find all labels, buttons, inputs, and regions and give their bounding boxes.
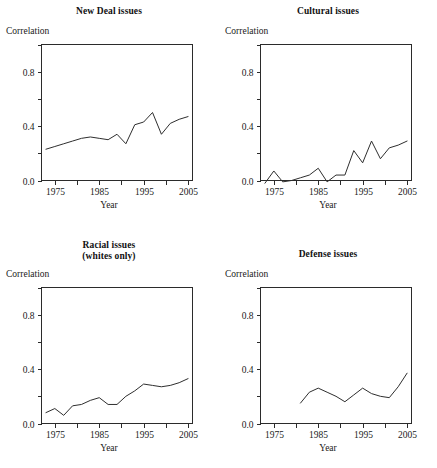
svg-text:1975: 1975 <box>265 430 284 440</box>
svg-text:1985: 1985 <box>309 430 328 440</box>
svg-text:1985: 1985 <box>90 430 109 440</box>
svg-text:0.4: 0.4 <box>23 365 35 375</box>
svg-text:2005: 2005 <box>179 430 198 440</box>
plot-area: 0.00.40.81975198519952005 <box>219 243 437 468</box>
svg-text:1975: 1975 <box>46 430 65 440</box>
x-axis-label: Year <box>219 200 437 210</box>
svg-text:0.0: 0.0 <box>23 177 35 187</box>
data-series-line <box>46 113 188 150</box>
svg-text:1985: 1985 <box>90 187 109 197</box>
svg-text:0.0: 0.0 <box>23 420 35 430</box>
figure-four-panel-correlation-charts: New Deal issues Correlation 0.00.40.8197… <box>0 0 437 468</box>
svg-text:2005: 2005 <box>398 187 417 197</box>
plot-area: 0.00.40.81975198519952005 <box>0 0 218 234</box>
svg-text:0.0: 0.0 <box>242 177 254 187</box>
plot-area: 0.00.40.81975198519952005 <box>219 0 437 234</box>
svg-text:1995: 1995 <box>135 187 154 197</box>
svg-text:0.4: 0.4 <box>242 365 254 375</box>
svg-text:2005: 2005 <box>398 430 417 440</box>
panel-cultural-issues: Cultural issues Correlation 0.00.40.8197… <box>219 0 437 234</box>
x-axis-label: Year <box>0 200 218 210</box>
svg-text:1995: 1995 <box>135 430 154 440</box>
x-axis-label: Year <box>219 443 437 453</box>
svg-text:1995: 1995 <box>354 187 373 197</box>
svg-text:0.8: 0.8 <box>242 68 254 78</box>
svg-text:2005: 2005 <box>179 187 198 197</box>
svg-text:1975: 1975 <box>46 187 65 197</box>
plot-area: 0.00.40.81975198519952005 <box>0 243 218 468</box>
data-series-line <box>265 141 407 183</box>
svg-text:1985: 1985 <box>309 187 328 197</box>
svg-text:0.8: 0.8 <box>23 311 35 321</box>
svg-text:0.4: 0.4 <box>242 122 254 132</box>
panel-racial-issues: Racial issues (whites only) Correlation … <box>0 234 218 468</box>
x-axis-label: Year <box>0 443 218 453</box>
svg-text:0.0: 0.0 <box>242 420 254 430</box>
panel-defense-issues: Defense issues Correlation 0.00.40.81975… <box>219 234 437 468</box>
panel-new-deal-issues: New Deal issues Correlation 0.00.40.8197… <box>0 0 218 234</box>
data-series-line <box>300 373 407 403</box>
svg-text:1995: 1995 <box>354 430 373 440</box>
svg-text:0.4: 0.4 <box>23 122 35 132</box>
svg-text:0.8: 0.8 <box>242 311 254 321</box>
data-series-line <box>46 379 188 416</box>
svg-text:0.8: 0.8 <box>23 68 35 78</box>
svg-text:1975: 1975 <box>265 187 284 197</box>
